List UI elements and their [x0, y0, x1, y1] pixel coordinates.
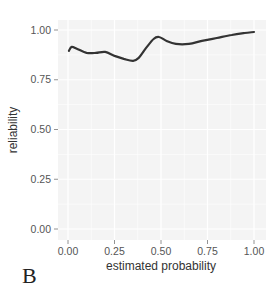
x-tick-label: 0.25: [104, 245, 125, 257]
y-tick-label: 0.75: [31, 73, 52, 85]
y-axis: 0.000.250.500.751.00: [31, 24, 58, 235]
y-tick-label: 1.00: [31, 24, 52, 36]
panel-label: B: [22, 263, 37, 288]
x-tick-label: 0.50: [151, 245, 172, 257]
x-tick-label: 0.75: [197, 245, 218, 257]
x-axis-title: estimated probability: [106, 259, 216, 273]
reliability-chart: 0.000.250.500.751.00 0.000.250.500.751.0…: [0, 0, 279, 295]
y-tick-label: 0.50: [31, 123, 52, 135]
y-tick-label: 0.00: [31, 223, 52, 235]
x-tick-label: 1.00: [244, 245, 265, 257]
y-tick-label: 0.25: [31, 173, 52, 185]
y-axis-title: reliability: [6, 107, 20, 154]
x-axis: 0.000.250.500.751.00: [58, 240, 265, 257]
x-tick-label: 0.00: [58, 245, 79, 257]
